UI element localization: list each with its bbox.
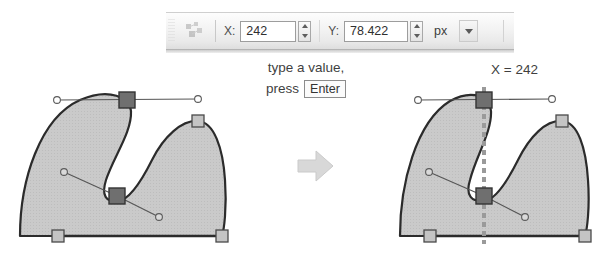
y-input-value: 78.422 — [350, 24, 388, 38]
node-unselected[interactable] — [216, 230, 228, 242]
node-unselected[interactable] — [579, 230, 591, 242]
toolbar-separator-2 — [319, 20, 320, 42]
toolbar-separator-3 — [503, 20, 504, 42]
enter-key-cap: Enter — [304, 80, 346, 98]
toolbar-bottom-edge — [166, 50, 514, 53]
handle-knob[interactable] — [61, 169, 68, 176]
caption-press-word: press — [266, 79, 299, 98]
node-unselected[interactable] — [556, 115, 568, 127]
node-selected[interactable] — [119, 92, 135, 108]
spinner-down-arrow-icon[interactable] — [414, 34, 420, 38]
handle-knob[interactable] — [54, 97, 61, 104]
handle-knob[interactable] — [522, 214, 529, 221]
x-field-label: X: — [224, 24, 235, 38]
handle-knob[interactable] — [426, 169, 433, 176]
right-arrow-icon — [296, 147, 336, 185]
x-spinner[interactable] — [298, 21, 311, 42]
caption-line-1: type a value, — [232, 58, 380, 77]
y-field-label: Y: — [328, 24, 339, 38]
unit-label[interactable]: px — [430, 23, 451, 39]
handle-knob[interactable] — [415, 97, 422, 104]
node-selected[interactable] — [476, 92, 492, 108]
chevron-down-icon — [465, 29, 473, 34]
node-selected[interactable] — [476, 188, 492, 204]
shape-after — [392, 84, 603, 252]
caption-line-2: press Enter — [232, 79, 380, 98]
node-unselected[interactable] — [424, 230, 436, 242]
node-tool-controls-bar: X: 242 Y: 78.422 px — [166, 12, 514, 50]
spinner-down-arrow-icon[interactable] — [302, 34, 308, 38]
x-coordinate-input[interactable]: 242 — [240, 21, 296, 42]
unit-dropdown-button[interactable] — [459, 20, 478, 42]
guide-value-label: X = 242 — [491, 62, 538, 77]
toolbar-separator-1 — [215, 20, 216, 42]
node-selected[interactable] — [109, 188, 125, 204]
node-unselected[interactable] — [52, 230, 64, 242]
y-coordinate-input[interactable]: 78.422 — [344, 21, 408, 42]
handle-knob[interactable] — [549, 96, 556, 103]
spinner-up-arrow-icon[interactable] — [414, 24, 420, 28]
node-editor-icon[interactable] — [181, 19, 207, 43]
x-input-value: 242 — [246, 24, 267, 38]
y-spinner[interactable] — [410, 21, 423, 42]
illustration-canvas: X: 242 Y: 78.422 px type a value, press … — [0, 0, 603, 256]
handle-knob[interactable] — [156, 214, 163, 221]
drag-grip-icon[interactable] — [168, 19, 175, 43]
handle-knob[interactable] — [195, 96, 202, 103]
spinner-up-arrow-icon[interactable] — [302, 24, 308, 28]
shape-before — [18, 84, 248, 252]
instruction-caption: type a value, press Enter — [232, 58, 380, 98]
node-editor-glyph — [183, 21, 205, 41]
node-unselected[interactable] — [192, 115, 204, 127]
